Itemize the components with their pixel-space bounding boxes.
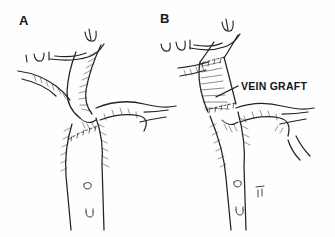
figure-canvas: A B VEIN GRAFT [0,0,335,237]
leader-line-icon [216,86,238,97]
branch-orifice-icon [234,181,264,216]
branch-orifice-icon [84,183,93,218]
vessel-clip-icon [85,29,96,41]
vein-graft-callout-label: VEIN GRAFT [241,81,307,92]
vascular-illustration [0,0,335,237]
panel-label-b: B [160,12,170,25]
panel-label-a: A [19,14,29,27]
panel-a-artery [18,29,176,230]
vessel-clip-icon [26,52,49,62]
vessel-clip-icon [161,40,190,51]
vessel-clip-icon [222,19,233,31]
graft-hatching [201,62,229,109]
panel-b-artery [161,19,314,230]
